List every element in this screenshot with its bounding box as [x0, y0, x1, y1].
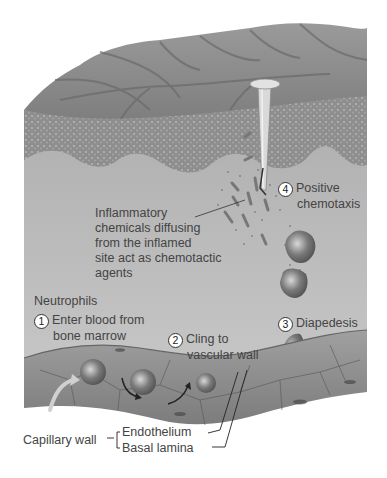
step2-label: 2Cling to vascular wall — [168, 332, 259, 363]
step3-line1: Diapedesis — [296, 316, 358, 330]
step1-line2: bone marrow — [34, 329, 144, 344]
basal-lamina-label: Basal lamina — [122, 441, 194, 456]
step3-label: 3Diapedesis — [278, 316, 358, 332]
step2-number: 2 — [168, 333, 183, 348]
step4-line1: Positive — [296, 181, 340, 195]
step4-number: 4 — [278, 182, 293, 197]
inflammatory-label: Inflammatory chemicals diffusing from th… — [95, 206, 221, 281]
step4-line2: chemotaxis — [278, 197, 360, 212]
inflammatory-line2: chemicals diffusing — [95, 221, 221, 236]
neutrophils-label: Neutrophils — [34, 294, 97, 309]
inflammatory-line5: agents — [95, 266, 221, 281]
step4-label: 4Positive chemotaxis — [278, 181, 360, 212]
capillary-wall-label: Capillary wall — [23, 433, 97, 448]
endothelium-label: Endothelium — [122, 425, 192, 440]
inflammatory-line1: Inflammatory — [95, 206, 221, 221]
diagram-stage: Inflammatory chemicals diffusing from th… — [0, 0, 387, 478]
inflammatory-line3: from the inflamed — [95, 236, 221, 251]
inflammatory-line4: site act as chemotactic — [95, 251, 221, 266]
step1-label: 1Enter blood from bone marrow — [34, 313, 144, 344]
step3-number: 3 — [278, 317, 293, 332]
step1-number: 1 — [34, 314, 49, 329]
step2-line1: Cling to — [186, 332, 228, 346]
step1-line1: Enter blood from — [52, 313, 144, 327]
step2-line2: vascular wall — [168, 348, 259, 363]
